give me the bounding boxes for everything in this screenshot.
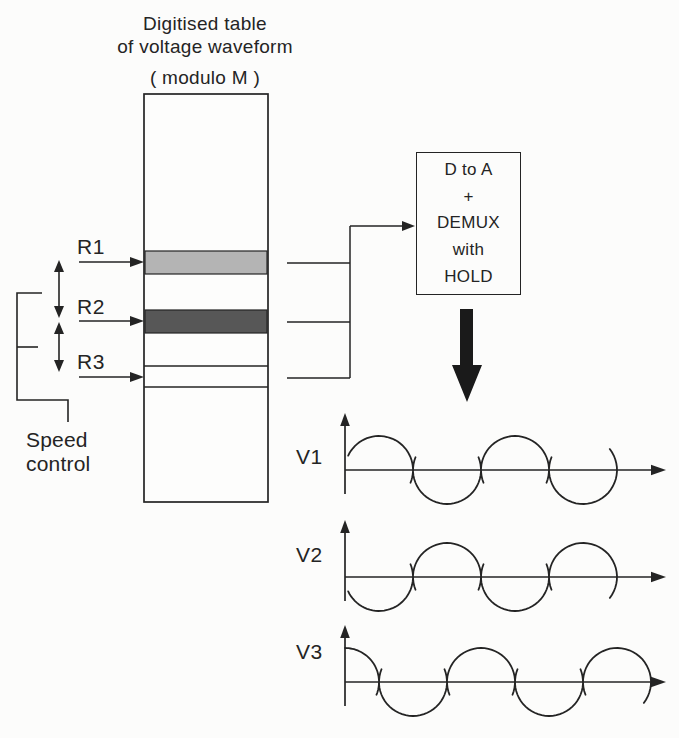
- vertical-axis-arrowhead-icon: [340, 520, 350, 533]
- title-line-1: Digitised table: [96, 12, 314, 35]
- vertical-axis-arrowhead-icon: [340, 413, 350, 426]
- waveform-v2: [340, 520, 666, 611]
- waveform-label-v2: V2: [296, 544, 323, 565]
- pointer-label-r3: R3: [77, 351, 105, 372]
- converter-box-line-4: with: [453, 240, 484, 260]
- r3-pointer-arrow-icon: [79, 372, 144, 382]
- horizontal-axis-arrowhead-icon: [651, 465, 666, 475]
- converter-box-line-2: +: [463, 187, 473, 207]
- table-row-r2-band: [145, 310, 267, 333]
- pointer-label-r2: R2: [77, 296, 105, 317]
- converter-input-arrowhead-icon: [402, 221, 415, 231]
- horizontal-axis-arrowhead-icon: [651, 677, 666, 687]
- converter-box-line-5: HOLD: [444, 267, 492, 287]
- double-arrow-r1-r2-icon: [54, 260, 64, 318]
- double-arrow-r2-r3-icon: [54, 322, 64, 372]
- diagram-page: Digitised table of voltage waveform ( mo…: [0, 0, 679, 738]
- converter-box-line-1: D to A: [444, 160, 492, 180]
- horizontal-axis-arrowhead-icon: [651, 572, 666, 582]
- waveform-v3: [340, 625, 666, 716]
- converter-box: D to A + DEMUX with HOLD: [416, 152, 521, 295]
- waveform-v1: [340, 413, 666, 504]
- diagram-title: Digitised table of voltage waveform ( mo…: [96, 12, 314, 89]
- speed-control-label: Speed control: [26, 428, 120, 476]
- waveform-table-outline: [144, 94, 268, 502]
- waveform-label-v1: V1: [296, 446, 323, 467]
- table-row-r1-band: [145, 251, 267, 274]
- converter-box-line-3: DEMUX: [437, 213, 500, 233]
- title-line-modulo: ( modulo M ): [96, 66, 314, 89]
- title-line-2: of voltage waveform: [96, 35, 314, 58]
- waveform-label-v3: V3: [296, 641, 323, 662]
- output-waveforms: [340, 413, 666, 716]
- converter-output-arrow-icon: [452, 309, 482, 402]
- vertical-axis-arrowhead-icon: [340, 625, 350, 638]
- table-to-converter-connector: [287, 221, 415, 378]
- r1-pointer-arrow-icon: [79, 257, 144, 267]
- pointer-label-r1: R1: [77, 236, 105, 257]
